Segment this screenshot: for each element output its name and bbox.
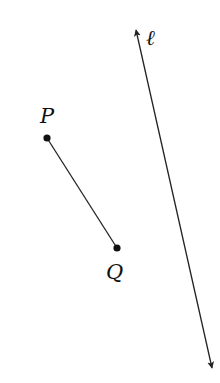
label-l: ℓ [146, 26, 155, 50]
segment-pq [47, 138, 117, 248]
point-p [43, 134, 50, 141]
label-p: P [39, 104, 55, 128]
diagram-canvas: ℓ P Q [0, 0, 220, 383]
line-l [136, 30, 212, 368]
label-q: Q [106, 260, 123, 284]
point-q [113, 244, 120, 251]
